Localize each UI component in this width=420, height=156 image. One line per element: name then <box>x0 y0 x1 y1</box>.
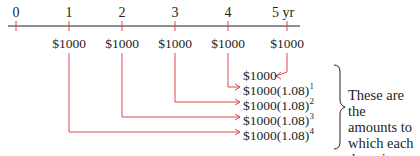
note-line: which each <box>348 135 420 151</box>
future-value-2: $1000(1.08)2 <box>243 99 314 113</box>
future-value-1: $1000(1.08)1 <box>243 84 314 98</box>
deposit-year1: $1000 <box>52 37 86 51</box>
note-line: These are the <box>348 87 420 119</box>
note-line: deposit grows. <box>348 151 420 156</box>
deposit-year2: $1000 <box>105 37 139 51</box>
tick-label-5: 5 yr <box>272 6 294 20</box>
deposit-year3: $1000 <box>158 37 192 51</box>
deposit-year4: $1000 <box>211 37 245 51</box>
tick-label-4: 4 <box>225 6 232 20</box>
arrow-year2 <box>122 53 240 117</box>
explanation-note: These are the amounts to which each depo… <box>348 87 420 156</box>
tick-label-1: 1 <box>66 6 73 20</box>
future-value-3: $1000(1.08)3 <box>243 114 314 128</box>
arrow-year4 <box>228 53 240 87</box>
future-value-4: $1000(1.08)4 <box>243 129 314 143</box>
tick-label-2: 2 <box>119 6 126 20</box>
arrow-year3 <box>175 53 240 102</box>
deposit-year5: $1000 <box>270 37 304 51</box>
arrow-year1 <box>69 53 240 132</box>
arrow-year5 <box>276 53 287 76</box>
tick-label-3: 3 <box>172 6 179 20</box>
tick-label-0: 0 <box>13 6 20 20</box>
brace <box>334 65 345 149</box>
note-line: amounts to <box>348 119 420 135</box>
future-value-0: $1000 <box>243 69 277 83</box>
